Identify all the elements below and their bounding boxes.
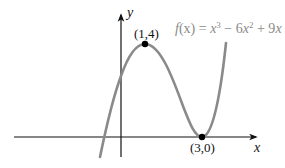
function-formula: f(x) = x3 − 6x2 + 9x bbox=[175, 22, 282, 36]
y-axis-label: y bbox=[127, 6, 133, 20]
formula-eq: = bbox=[195, 21, 210, 36]
max-point-label: (1,4) bbox=[134, 27, 159, 40]
formula-arg: (x) bbox=[179, 21, 195, 36]
local-maximum-point bbox=[142, 41, 148, 47]
formula-x3: x bbox=[275, 21, 281, 36]
min-point-label: (3,0) bbox=[190, 141, 215, 154]
formula-plus9: + 9 bbox=[253, 21, 275, 36]
formula-minus6: − 6 bbox=[221, 21, 243, 36]
x-axis-label: x bbox=[254, 141, 260, 155]
